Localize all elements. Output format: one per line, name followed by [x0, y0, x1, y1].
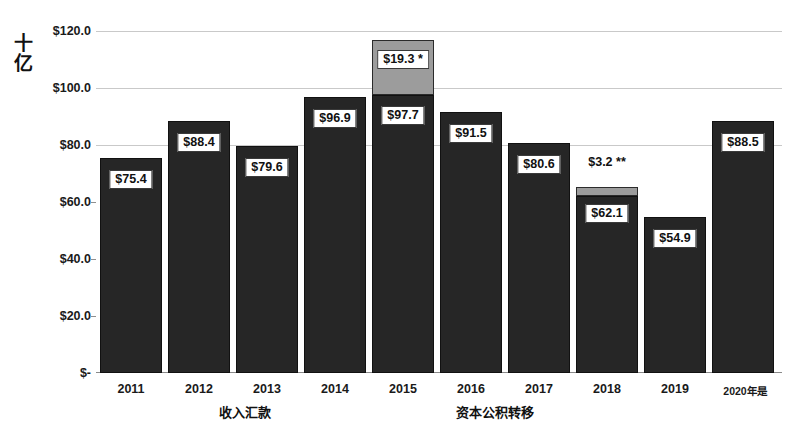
- tick-20: [91, 316, 96, 317]
- page-edge-artifact: [0, 419, 792, 426]
- plot-area: $75.4 $88.4 $79.6 $96.9 $19.3 * $97.7 $9…: [96, 31, 782, 373]
- bar-value-label-2012: $88.4: [177, 133, 220, 152]
- bar-2017[interactable]: $80.6: [508, 143, 570, 373]
- bar-value-label-capital-2015: $19.3 *: [377, 50, 429, 69]
- x-axis-label-2019: 2019: [644, 382, 706, 396]
- y-axis-tick-labels: $120.0 $100.0 $80.0 $60.0 $40.0 $20.0 $-: [28, 31, 91, 373]
- bar-segment-income-2014: [304, 97, 366, 373]
- bar-value-label-2014: $96.9: [313, 109, 356, 128]
- bar-segment-income-2012: [168, 121, 230, 373]
- bar-2016[interactable]: $91.5: [440, 112, 502, 373]
- bar-value-label-income-2018: $62.1: [585, 204, 628, 223]
- y-tick-label: $20.0: [33, 309, 91, 323]
- x-axis-label-2017: 2017: [508, 382, 570, 396]
- bar-segment-income-2015: [372, 95, 434, 373]
- x-axis-label-2016: 2016: [440, 382, 502, 396]
- bar-2012[interactable]: $88.4: [168, 121, 230, 373]
- y-tick-label: $-: [33, 366, 91, 380]
- bar-value-label-2020: $88.5: [721, 133, 764, 152]
- bar-segment-capital-2018: [576, 187, 638, 196]
- bar-value-label-2013: $79.6: [245, 158, 288, 177]
- y-tick-label: $60.0: [33, 195, 91, 209]
- bar-2014[interactable]: $96.9: [304, 97, 366, 373]
- bar-value-label-2016: $91.5: [449, 124, 492, 143]
- bar-value-label-2017: $80.6: [517, 155, 560, 174]
- bar-value-label-2011: $75.4: [109, 170, 152, 189]
- bar-2020[interactable]: $88.5: [712, 121, 774, 373]
- x-axis-label-2013: 2013: [236, 382, 298, 396]
- bar-segment-income-2017: [508, 143, 570, 373]
- y-tick-label: $80.0: [33, 138, 91, 152]
- x-axis-label-2011: 2011: [100, 382, 162, 396]
- tick-40: [91, 259, 96, 260]
- x-axis-label-2018: 2018: [576, 382, 638, 396]
- bar-segment-income-2020: [712, 121, 774, 373]
- bar-value-label-capital-2018: $3.2 **: [588, 156, 626, 169]
- bar-2013[interactable]: $79.6: [236, 146, 298, 373]
- bar-chart: 十 亿 $120.0 $100.0 $80.0 $60.0 $40.0 $20.…: [0, 0, 792, 426]
- x-axis-label-2020: 2020年是: [712, 383, 778, 398]
- tick-60: [91, 202, 96, 203]
- bar-segment-income-2011: [100, 158, 162, 373]
- bar-2019[interactable]: $54.9: [644, 217, 706, 373]
- bar-2018[interactable]: $3.2 ** $62.1: [576, 187, 638, 373]
- bar-2011[interactable]: $75.4: [100, 158, 162, 373]
- bar-value-label-2019: $54.9: [653, 229, 696, 248]
- gridline-100: [96, 88, 782, 89]
- x-axis-label-2012: 2012: [168, 382, 230, 396]
- x-axis-label-2014: 2014: [304, 382, 366, 396]
- y-tick-label: $100.0: [33, 81, 91, 95]
- x-axis-label-2015: 2015: [372, 382, 434, 396]
- bar-value-label-income-2015: $97.7: [381, 106, 424, 125]
- bar-2015[interactable]: $19.3 * $97.7: [372, 40, 434, 373]
- y-tick-label: $120.0: [33, 24, 91, 38]
- bar-segment-income-2016: [440, 112, 502, 373]
- bar-segment-income-2013: [236, 146, 298, 373]
- gridline-120: [96, 31, 782, 32]
- y-tick-label: $40.0: [33, 252, 91, 266]
